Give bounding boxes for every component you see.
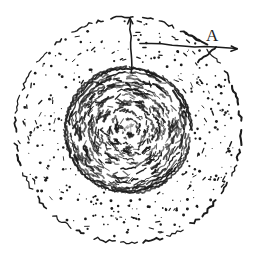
figure-drawing [0, 0, 263, 265]
figure-canvas: A [0, 0, 263, 265]
label-a: A [206, 27, 218, 44]
